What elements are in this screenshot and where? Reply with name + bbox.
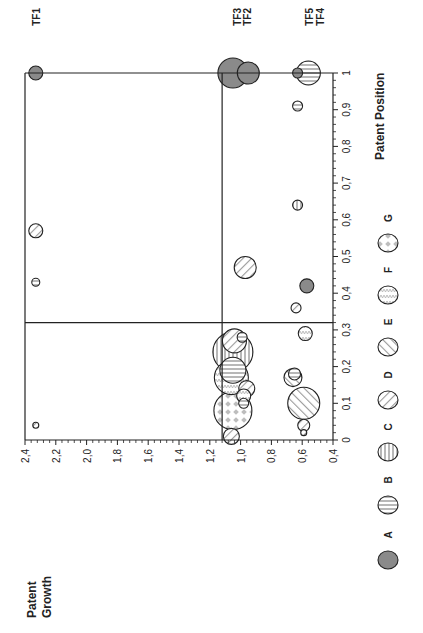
legend-swatch-a	[378, 551, 398, 569]
position-tick-label: 0,5	[341, 249, 352, 263]
legend-label-c: C	[383, 423, 394, 430]
legend-label-f: F	[383, 267, 394, 273]
legend-label-a: A	[383, 531, 394, 538]
position-tick-label: 0,4	[341, 286, 352, 300]
growth-tick-label: 1,6	[143, 449, 154, 463]
bubble-chart: Patent Growth Patent Position 0,40,60,81…	[0, 0, 423, 633]
position-tick-label: 0,7	[341, 176, 352, 190]
legend-swatch-d	[378, 391, 398, 409]
position-tick-label: 0,8	[341, 139, 352, 153]
legend-label-d: D	[383, 371, 394, 378]
bubble-B	[239, 398, 249, 408]
growth-tick-label: 2,0	[82, 449, 93, 463]
y-axis-title: Patent Growth	[25, 576, 54, 618]
annotation-tf1: TF1	[31, 8, 42, 26]
position-tick-label: 0,2	[341, 359, 352, 373]
bubble-D	[301, 430, 307, 436]
legend-swatch-c	[378, 443, 398, 461]
annotation-tf4: TF4	[315, 8, 326, 26]
position-tick-label: 0,3	[341, 323, 352, 337]
legend-swatch-b	[378, 496, 398, 514]
legend: ABCDEFG	[378, 214, 398, 569]
plot-area	[29, 58, 321, 444]
legend-label-g: G	[383, 214, 394, 222]
bubble-B	[293, 101, 303, 111]
svg-text:Growth: Growth	[40, 576, 54, 618]
legend-swatch-f	[378, 286, 398, 304]
position-tick-label: 1	[341, 70, 352, 76]
position-tick-label: 0,1	[341, 396, 352, 410]
annotation-tf3: TF3	[232, 8, 243, 26]
bubble-B	[289, 368, 301, 380]
bubble-E	[288, 387, 320, 419]
growth-tick-label: 1,2	[205, 449, 216, 463]
position-tick-label: 0	[341, 437, 352, 443]
bubble-B	[237, 332, 247, 342]
bubble-B	[220, 357, 246, 383]
growth-tick-label: 1,0	[236, 449, 247, 463]
bubble-B	[32, 278, 40, 286]
bubble-A	[300, 279, 314, 293]
bubble-C	[293, 200, 303, 210]
growth-tick-label: 0,6	[297, 449, 308, 463]
annotation-tf5: TF5	[304, 8, 315, 26]
position-tick-label: 0,9	[341, 102, 352, 116]
legend-swatch-e	[378, 338, 398, 356]
bubble-D	[33, 422, 39, 428]
legend-label-e: E	[383, 318, 394, 325]
growth-tick-label: 0,8	[266, 449, 277, 463]
growth-tick-label: 1,4	[174, 449, 185, 463]
bubble-D	[291, 303, 301, 313]
legend-swatch-g	[378, 234, 398, 252]
growth-tick-label: 1,8	[112, 449, 123, 463]
growth-tick-label: 2,2	[51, 449, 62, 463]
bubble-D	[234, 257, 256, 279]
growth-tick-label: 0,4	[328, 449, 339, 463]
x-axis-title: Patent Position	[373, 73, 387, 160]
position-tick-label: 0,6	[341, 212, 352, 226]
bubble-D	[223, 428, 239, 444]
annotation-tf2: TF2	[242, 8, 253, 26]
svg-text:Patent: Patent	[25, 581, 39, 618]
legend-label-b: B	[383, 476, 394, 483]
bubble-F	[298, 327, 312, 341]
growth-tick-label: 2,4	[20, 449, 31, 463]
bubble-D	[29, 224, 43, 238]
